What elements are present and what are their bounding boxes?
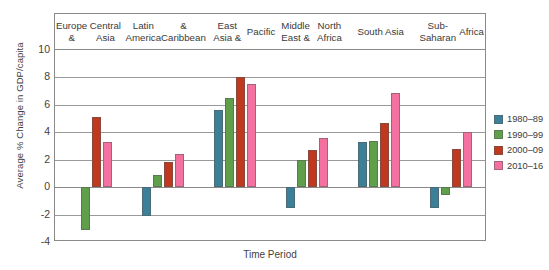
- y-tick-8: 8: [24, 70, 50, 82]
- bar-chart-figure: Average % Change in GDP/capita 1086420-2…: [0, 0, 549, 270]
- y-tick-10: 10: [24, 43, 50, 55]
- y-tick-2: 2: [24, 153, 50, 165]
- bar-4-1: [369, 141, 379, 187]
- bar-4-0: [358, 142, 368, 187]
- legend-item-0: 1980–89: [494, 112, 549, 126]
- bar-3-1: [297, 160, 307, 187]
- y-axis-tick-labels: 1086420-2-4: [24, 13, 50, 241]
- bar-5-2: [452, 149, 462, 187]
- bar-4-2: [380, 123, 390, 187]
- bar-3-3: [319, 138, 329, 187]
- bar-1-1: [153, 175, 163, 187]
- bar-4-3: [391, 93, 401, 188]
- bar-3-0: [286, 187, 296, 208]
- bar-1-2: [164, 162, 174, 187]
- bars-layer: [55, 14, 485, 240]
- bar-5-3: [463, 132, 473, 187]
- plot-area: Europe &Central AsiaLatin America& Carib…: [54, 13, 486, 241]
- x-axis-title: Time Period: [54, 249, 486, 260]
- legend-label-3: 2010–16: [507, 161, 543, 171]
- bar-2-0: [214, 110, 224, 187]
- legend-label-1: 1990–99: [507, 130, 543, 140]
- bar-1-0: [142, 187, 152, 216]
- legend-label-0: 1980–89: [507, 114, 543, 124]
- y-tick-neg4: -4: [24, 235, 50, 247]
- bar-2-2: [236, 77, 246, 187]
- legend-label-2: 2000–09: [507, 145, 543, 155]
- legend-swatch-icon-1: [494, 130, 503, 139]
- legend-item-3: 2010–16: [494, 159, 549, 173]
- bar-3-2: [308, 150, 318, 187]
- legend-item-1: 1990–99: [494, 128, 549, 142]
- y-tick-neg2: -2: [24, 208, 50, 220]
- bar-5-0: [430, 187, 440, 208]
- y-tick-6: 6: [24, 98, 50, 110]
- bar-0-3: [103, 142, 113, 187]
- legend-swatch-icon-3: [494, 161, 503, 170]
- bar-1-3: [175, 154, 185, 187]
- legend: 1980–891990–992000–092010–16: [494, 112, 549, 174]
- bar-2-1: [225, 98, 235, 187]
- legend-swatch-icon-2: [494, 146, 503, 155]
- legend-item-2: 2000–09: [494, 143, 549, 157]
- y-axis-title: Average % Change in GDP/capita: [14, 11, 25, 221]
- bar-2-3: [247, 84, 257, 187]
- y-tick-0: 0: [24, 180, 50, 192]
- bar-0-1: [81, 187, 91, 230]
- legend-swatch-icon-0: [494, 115, 503, 124]
- bar-0-2: [92, 117, 102, 187]
- bar-5-1: [441, 187, 451, 195]
- y-tick-4: 4: [24, 125, 50, 137]
